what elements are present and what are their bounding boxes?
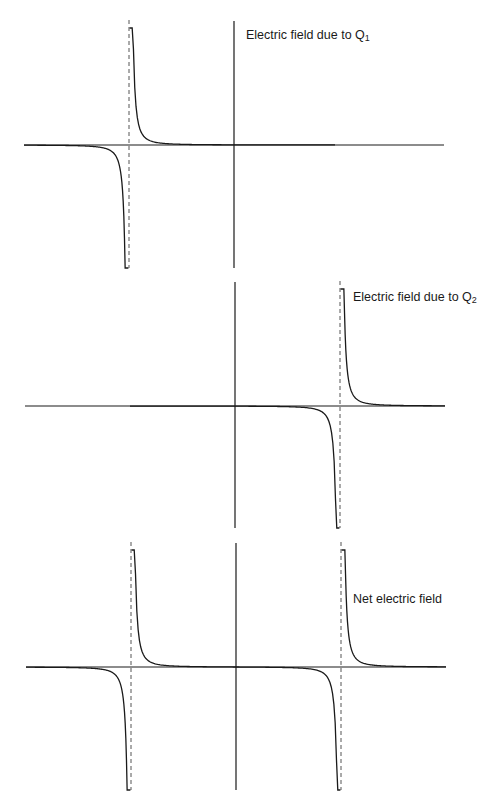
panel-label-net: Net electric field (353, 593, 442, 606)
field-curve-right (342, 550, 446, 667)
electric-field-diagram (0, 0, 489, 808)
panel-q2 (25, 281, 445, 528)
field-curve-left (26, 667, 130, 790)
label-text: Net electric field (353, 592, 442, 606)
field-curve-left (24, 145, 128, 268)
label-subscript: 1 (365, 33, 370, 43)
panel-q1 (24, 20, 444, 268)
field-curve-right (130, 28, 335, 145)
panel-label-q1: Electric field due to Q1 (246, 29, 370, 42)
label-text: Electric field due to Q (353, 290, 472, 304)
panel-net (26, 542, 446, 790)
panel-label-q2: Electric field due to Q2 (353, 291, 477, 304)
field-curve-right (341, 289, 445, 406)
label-text: Electric field due to Q (246, 28, 365, 42)
label-subscript: 2 (472, 295, 477, 305)
